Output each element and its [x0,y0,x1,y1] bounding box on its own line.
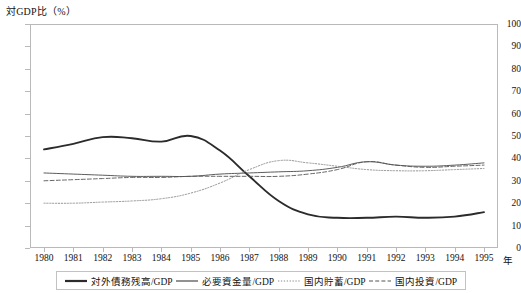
legend-label: 対外債務残高/GDP [91,274,173,288]
legend-swatch-dotted-icon [278,277,300,285]
legend-swatch-dashed-icon [369,277,391,285]
legend-label: 必要資金量/GDP [202,274,274,288]
series-line [44,160,484,203]
legend-swatch-solid-thick-icon [65,277,87,285]
legend-item: 必要資金量/GDP [176,274,274,288]
legend-label: 国内投資/GDP [395,274,457,288]
legend-item: 国内貯蓄/GDP [278,274,366,288]
series-line [44,162,484,181]
legend-swatch-solid-thin-icon [176,277,198,285]
chart-legend: 対外債務残高/GDP必要資金量/GDP国内貯蓄/GDP国内投資/GDP [56,271,466,290]
series-layer [0,0,521,293]
legend-label: 国内貯蓄/GDP [304,274,366,288]
legend-item: 対外債務残高/GDP [65,274,173,288]
chart-root: 対GDP比（%） 0102030405060708090100 19801981… [0,0,521,293]
legend-item: 国内投資/GDP [369,274,457,288]
